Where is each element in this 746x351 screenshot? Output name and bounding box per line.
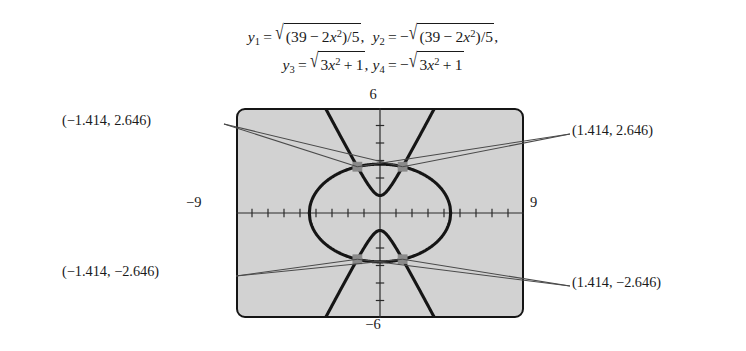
num-5-b: 5 xyxy=(485,28,493,45)
ymax-label: 6 xyxy=(0,86,746,103)
radicand-y4: 3x2+1 xyxy=(417,51,463,77)
radical-sign-icon: √ xyxy=(275,15,284,48)
figure-root: y1=√(39−2x2)/5, y2=−√(39−2x2)/5, y3=√3x2… xyxy=(0,0,746,351)
y4-variable: y xyxy=(373,56,380,73)
radicand-y2: (39−2x2)/5 xyxy=(417,23,494,49)
xmax-label: 9 xyxy=(530,194,537,211)
equation-line-1: y1=√(39−2x2)/5, y2=−√(39−2x2)/5, xyxy=(0,22,746,50)
num-39-a: 39 xyxy=(291,28,307,45)
equation-block: y1=√(39−2x2)/5, y2=−√(39−2x2)/5, y3=√3x2… xyxy=(0,22,746,78)
callout-top-right: (1.414, 2.646) xyxy=(572,122,653,139)
exp-d: 2 xyxy=(434,56,439,67)
y2-variable: y xyxy=(373,28,380,45)
comma-2: , xyxy=(494,28,498,45)
equation-line-2: y3=√3x2+1, y4=−√3x2+1 xyxy=(0,50,746,78)
radical-sign-icon: √ xyxy=(409,43,418,76)
num-5-a: 5 xyxy=(352,28,360,45)
equals-4: = xyxy=(385,56,400,73)
plot-canvas xyxy=(236,108,524,318)
radical-sign-icon: √ xyxy=(310,43,319,76)
minus-b: − xyxy=(440,28,455,45)
callout-bottom-right: (1.414, −2.646) xyxy=(572,274,661,291)
equals-1: = xyxy=(260,28,275,45)
exp-b: 2 xyxy=(470,28,475,39)
equals-3: = xyxy=(295,56,310,73)
plus-a: + xyxy=(341,56,356,73)
radicand-y3: 3x2+1 xyxy=(318,51,364,77)
radicand-y1: (39−2x2)/5 xyxy=(284,23,361,49)
y1-variable: y xyxy=(248,28,255,45)
calculator-screen xyxy=(236,108,524,318)
num-39-b: 39 xyxy=(425,28,441,45)
callout-bottom-left: (−1.414, −2.646) xyxy=(62,263,159,280)
plus-b: + xyxy=(440,56,455,73)
negation-y4: − xyxy=(400,56,409,73)
num-2-a: 2 xyxy=(322,28,330,45)
equals-2: = xyxy=(385,28,400,45)
x-var-a: x xyxy=(330,28,337,45)
negation-y2: − xyxy=(400,28,409,45)
radical-y2: √(39−2x2)/5 xyxy=(409,22,494,49)
ymin-label: −6 xyxy=(0,316,746,333)
radical-y4: √3x2+1 xyxy=(409,50,464,77)
num-1-a: 1 xyxy=(356,56,364,73)
exp-a: 2 xyxy=(337,28,342,39)
num-1-b: 1 xyxy=(455,56,463,73)
exp-c: 2 xyxy=(335,56,340,67)
comma-1: , xyxy=(361,28,365,45)
comma-3: , xyxy=(365,56,369,73)
axes-group xyxy=(236,108,524,318)
callout-top-left: (−1.414, 2.646) xyxy=(62,112,151,129)
radical-y3: √3x2+1 xyxy=(310,50,365,77)
xmin-label: −9 xyxy=(186,194,201,211)
